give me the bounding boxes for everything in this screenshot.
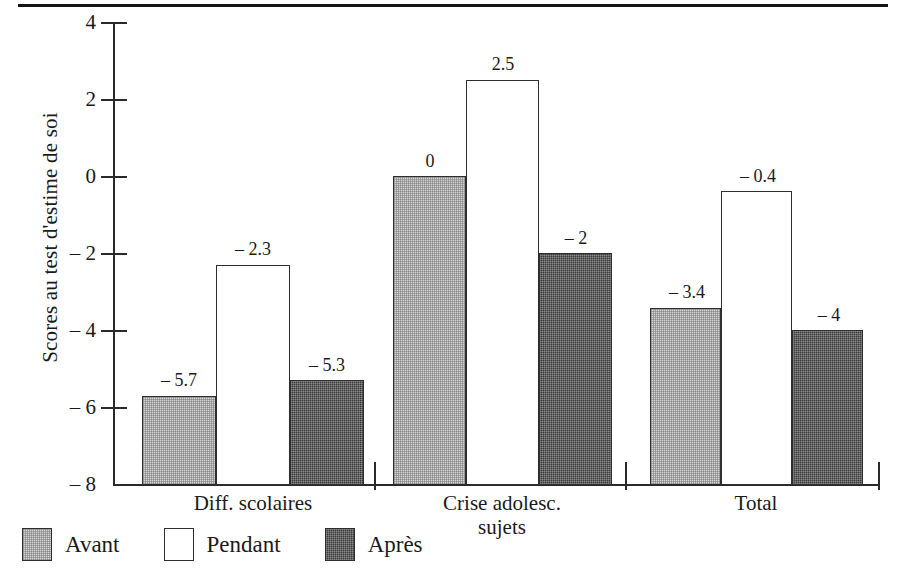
top-rule-divider: [18, 4, 888, 7]
bar-value-crise-adolesc-avant: 0: [390, 152, 470, 170]
bar-diff-scolaires-pendant[interactable]: [216, 265, 290, 486]
bar-crise-adolesc-apres[interactable]: [539, 253, 612, 485]
bar-chart-figure: Scores au test d'estime de soi 4 2 0 – 2…: [0, 0, 899, 585]
bar-total-apres[interactable]: [792, 330, 863, 485]
legend-label-avant: Avant: [65, 533, 120, 556]
bar-diff-scolaires-apres[interactable]: [290, 380, 364, 485]
legend-swatch-avant-icon: [22, 528, 52, 561]
bar-crise-adolesc-pendant[interactable]: [466, 80, 539, 485]
bar-crise-adolesc-avant[interactable]: [393, 176, 466, 485]
legend-swatch-pendant-icon: [164, 528, 194, 561]
y-tick-label-neg8: – 8: [26, 474, 96, 495]
legend-label-apres: Après: [368, 533, 423, 556]
group-label-diff-scolaires: Diff. scolaires: [143, 492, 363, 516]
bar-value-total-apres: – 4: [789, 306, 869, 324]
bar-value-diff-scolaires-apres: – 5.3: [287, 356, 367, 374]
bar-value-crise-adolesc-apres: – 2: [536, 229, 616, 247]
x-tick-separator-1: [374, 462, 376, 490]
legend-item-avant[interactable]: Avant: [22, 528, 120, 561]
bar-value-diff-scolaires-pendant: – 2.3: [213, 240, 293, 258]
legend-item-apres[interactable]: Après: [325, 528, 423, 561]
y-axis-label: Scores au test d'estime de soi: [38, 18, 63, 458]
bar-total-pendant[interactable]: [721, 191, 792, 485]
legend-item-pendant[interactable]: Pendant: [164, 528, 281, 561]
bar-total-avant[interactable]: [650, 308, 721, 485]
x-tick-separator-2: [625, 462, 627, 490]
y-tick-label-neg6: – 6: [26, 397, 96, 418]
y-tick-label-0: 0: [26, 166, 96, 187]
y-tick-label-neg2: – 2: [26, 243, 96, 264]
y-axis-line: [113, 22, 115, 486]
legend-label-pendant: Pendant: [207, 533, 281, 556]
bar-value-total-pendant: – 0.4: [718, 167, 798, 185]
bar-diff-scolaires-avant[interactable]: [142, 396, 216, 486]
bar-value-crise-adolesc-pendant: 2.5: [463, 55, 543, 73]
bar-value-diff-scolaires-avant: – 5.7: [139, 371, 219, 389]
y-tick-label-2: 2: [26, 89, 96, 110]
y-tick-label-neg4: – 4: [26, 320, 96, 341]
group-label-total: Total: [646, 492, 866, 516]
legend-swatch-apres-icon: [325, 528, 355, 561]
bar-value-total-avant: – 3.4: [647, 283, 727, 301]
x-tick-end: [878, 462, 880, 490]
y-tick-label-4: 4: [26, 12, 96, 33]
legend: Avant Pendant Après: [22, 528, 467, 561]
